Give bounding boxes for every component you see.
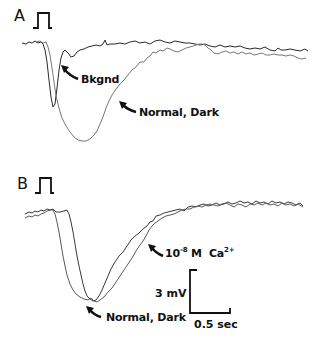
trace-b-calcium xyxy=(25,201,303,301)
label-calcium: 10-8 M Ca2+ xyxy=(165,246,234,260)
label-bkgnd: Bkgnd xyxy=(81,73,119,86)
scale-time-label: 0.5 sec xyxy=(194,318,238,331)
arrow-normal-dark-b-icon xyxy=(86,306,101,317)
square-pulse-icon xyxy=(35,178,54,193)
arrow-bkgnd-icon xyxy=(61,65,78,79)
arrow-normal-dark-a-icon xyxy=(119,101,136,112)
square-pulse-icon xyxy=(33,13,52,28)
arrow-calcium-icon xyxy=(148,244,163,256)
label-calcium-base: 10 xyxy=(165,247,180,260)
trace-a-normal-dark xyxy=(36,41,306,141)
label-normal-dark-b: Normal, Dark xyxy=(106,311,186,324)
scale-voltage-label: 3 mV xyxy=(155,287,186,300)
label-calcium-mid: M Ca xyxy=(187,247,224,260)
label-calcium-charge: 2+ xyxy=(224,246,234,254)
label-normal-dark-a: Normal, Dark xyxy=(139,106,219,119)
scale-bar xyxy=(190,270,230,313)
